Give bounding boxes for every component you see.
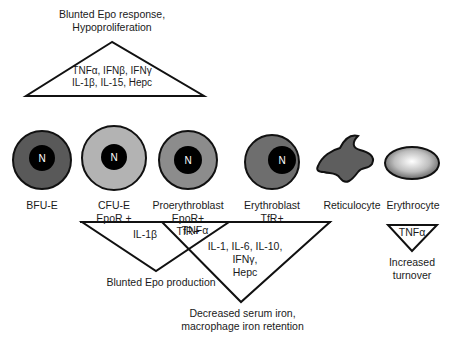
top-effect-line1: Blunted Epo response, xyxy=(52,8,172,21)
turnover-effect-label: Increased turnover xyxy=(382,256,442,282)
diagram-canvas xyxy=(0,0,460,347)
label-erythrocyte: Erythrocyte xyxy=(376,199,450,212)
cell-marker: TfR+ xyxy=(237,212,307,225)
nucleus-bfu-e: N xyxy=(32,152,52,165)
blunted-epo-production-label: Blunted Epo production xyxy=(96,276,226,289)
cell-marker: EpoR + xyxy=(84,212,144,225)
top-triangle-line1: TNFα, IFNβ, IFNγ xyxy=(62,65,162,77)
top-triangle-line2: IL-1β, IL-15, Hepc xyxy=(62,77,162,89)
cell-name: Erythroblast xyxy=(237,199,307,212)
label-erythroblast: Erythroblast TfR+ xyxy=(237,199,307,225)
cell-reticulocyte xyxy=(317,136,373,182)
iron-effect-line2: macrophage iron retention xyxy=(180,320,305,333)
label-bfu-e: BFU-E xyxy=(12,199,72,212)
turnover-triangle-label: TNFα xyxy=(397,226,427,239)
iron-cytokine-line: IL-1, IL-6, IL-10, xyxy=(205,240,285,253)
cell-erythrocyte xyxy=(385,147,439,179)
nucleus-cfu-e: N xyxy=(104,151,124,164)
cell-name: BFU-E xyxy=(12,199,72,212)
iron-cytokine-line: IFNγ, xyxy=(205,253,285,266)
top-effect-line2: Hypoproliferation xyxy=(52,21,172,34)
tnfa-overlap-label: TNFα xyxy=(175,224,215,237)
cell-name: Erythrocyte xyxy=(376,199,450,212)
top-effect-label: Blunted Epo response, Hypoproliferation xyxy=(52,8,172,34)
iron-cytokines-text: IL-1, IL-6, IL-10, IFNγ, Hepc xyxy=(205,240,285,279)
iron-effect-label: Decreased serum iron, macrophage iron re… xyxy=(180,307,305,333)
cell-name: Proerythroblast xyxy=(148,199,228,212)
cell-name: CFU-E xyxy=(84,199,144,212)
turnover-effect-line2: turnover xyxy=(382,269,442,282)
nucleus-proerythroblast: N xyxy=(178,154,198,167)
iron-effect-line1: Decreased serum iron, xyxy=(180,307,305,320)
label-cfu-e: CFU-E EpoR + xyxy=(84,199,144,225)
turnover-effect-line1: Increased xyxy=(382,256,442,269)
nucleus-erythroblast: N xyxy=(272,154,292,167)
il1b-label: IL-1β xyxy=(125,228,165,241)
top-triangle-text: TNFα, IFNβ, IFNγ IL-1β, IL-15, Hepc xyxy=(62,65,162,89)
